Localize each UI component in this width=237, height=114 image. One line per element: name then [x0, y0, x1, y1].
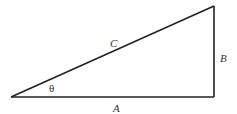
label-theta: θ [49, 82, 54, 94]
label-c: C [110, 37, 118, 49]
right-triangle-diagram: C B A θ [0, 0, 237, 114]
side-c-hypotenuse [11, 6, 214, 97]
label-a: A [112, 102, 120, 114]
label-b: B [220, 52, 227, 64]
